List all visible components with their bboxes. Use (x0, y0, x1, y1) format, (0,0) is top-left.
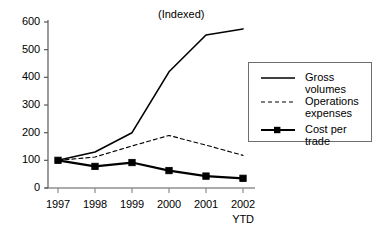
series-line-cost-per-trade (58, 160, 243, 178)
x-tick-label: 1997 (38, 198, 78, 210)
x-tick-sublabel: YTD (223, 213, 263, 225)
x-tick-label: 2002 (223, 198, 263, 210)
y-tick-label: 600 (10, 15, 40, 27)
data-point-marker (240, 175, 246, 181)
solid-line-swatch (259, 72, 297, 84)
legend-item: Gross volumes (249, 71, 371, 93)
dashed-line-swatch (259, 96, 297, 108)
legend-item: Operations expenses (249, 95, 371, 117)
legend-label: Cost per trade (305, 123, 371, 147)
data-point-marker (55, 157, 61, 163)
x-tick-label: 1998 (75, 198, 115, 210)
x-tick-label: 2001 (186, 198, 226, 210)
y-tick-label: 100 (10, 153, 40, 165)
y-tick-label: 300 (10, 98, 40, 110)
chart-legend: Gross volumesOperations expensesCost per… (248, 62, 372, 142)
x-tick-label: 1999 (112, 198, 152, 210)
legend-label: Gross volumes (305, 71, 371, 95)
x-tick-label: 2000 (149, 198, 189, 210)
data-point-marker (129, 159, 135, 165)
y-tick-label: 200 (10, 126, 40, 138)
legend-label: Operations expenses (305, 95, 359, 119)
data-series-group (55, 29, 246, 182)
axis-ticks (44, 22, 243, 193)
data-point-marker (92, 163, 98, 169)
series-line-operations-expenses (58, 135, 243, 160)
data-point-marker (203, 173, 209, 179)
y-tick-label: 400 (10, 70, 40, 82)
line-chart: (Indexed) 6005004003002001000 1997199819… (0, 0, 377, 245)
square-marker-line-swatch (259, 124, 297, 136)
legend-item: Cost per trade (249, 123, 371, 145)
data-point-marker (166, 167, 172, 173)
y-tick-label: 0 (10, 181, 40, 193)
y-tick-label: 500 (10, 43, 40, 55)
